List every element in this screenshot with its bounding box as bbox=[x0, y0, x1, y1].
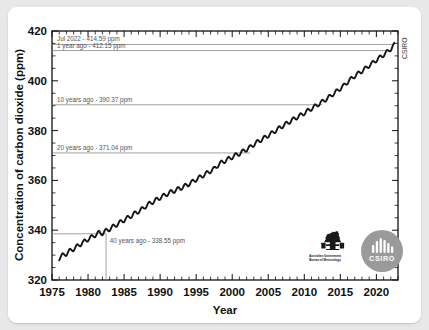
y-tick-label: 420 bbox=[28, 25, 47, 37]
csiro-logo-circle bbox=[361, 230, 403, 272]
x-tick-label: 2005 bbox=[255, 286, 281, 298]
bom-logo-line2: Bureau of Meteorology bbox=[309, 258, 341, 262]
reference-line-label: 1 year ago - 412.15 ppm bbox=[57, 42, 126, 50]
x-tick-label: 1975 bbox=[39, 286, 65, 298]
y-tick-label: 340 bbox=[28, 224, 47, 236]
x-tick-label: 1995 bbox=[183, 286, 209, 298]
chart-svg: 320340360380400420 Concentration of carb… bbox=[8, 7, 421, 323]
csiro-logo: CSIRO bbox=[361, 230, 403, 272]
csiro-logo-label: CSIRO bbox=[369, 254, 395, 263]
y-tick-label: 380 bbox=[28, 125, 47, 137]
reference-line-label: 10 years ago - 390.37 ppm bbox=[57, 96, 132, 104]
x-tick-label: 2000 bbox=[219, 286, 245, 298]
x-tick-label: 1985 bbox=[111, 286, 137, 298]
x-tick-label: 1980 bbox=[75, 286, 101, 298]
csiro-side-label: CSIRO bbox=[401, 37, 408, 59]
y-axis-title: Concentration of carbon dioxide (ppm) bbox=[13, 49, 25, 261]
co2-concentration-chart: 320340360380400420 Concentration of carb… bbox=[8, 7, 421, 323]
reference-line-label: 20 years ago - 371.04 ppm bbox=[57, 144, 132, 152]
y-tick-label: 320 bbox=[28, 274, 47, 286]
x-axis-title: Year bbox=[213, 304, 238, 316]
y-tick-label: 360 bbox=[28, 174, 47, 186]
x-tick-label: 2020 bbox=[364, 286, 390, 298]
x-tick-label: 2010 bbox=[291, 286, 317, 298]
chart-card: 320340360380400420 Concentration of carb… bbox=[8, 7, 421, 323]
x-tick-label: 2015 bbox=[328, 286, 354, 298]
reference-line-label: 40 years ago - 338.55 ppm bbox=[110, 237, 185, 245]
y-tick-label: 400 bbox=[28, 75, 47, 87]
chart-background bbox=[8, 7, 421, 323]
x-tick-label: 1990 bbox=[147, 286, 173, 298]
